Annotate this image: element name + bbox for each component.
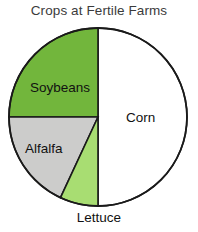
pie-label-soybeans: Soybeans	[30, 80, 90, 95]
pie-slice-soybeans[interactable]	[9, 28, 98, 117]
pie-chart-graphic: Corn Soybeans Alfalfa	[0, 0, 198, 232]
pie-label-corn: Corn	[126, 110, 155, 125]
pie-label-alfalfa: Alfalfa	[25, 141, 63, 156]
pie-chart-figure: Crops at Fertile Farms Corn Soybeans Alf…	[0, 0, 198, 232]
pie-label-lettuce: Lettuce	[0, 210, 198, 225]
